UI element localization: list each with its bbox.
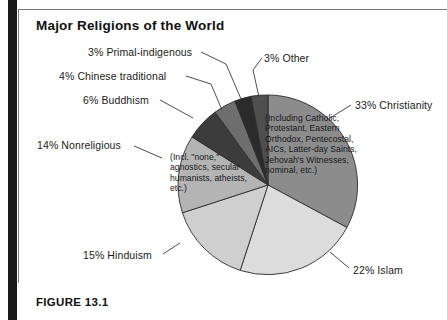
- slice-note-christianity: (Including Catholic, Protestant, Eastern…: [265, 113, 370, 175]
- nonreligious-note-line: humanists, atheists,: [170, 173, 265, 183]
- slice-label-hinduism: 15% Hinduism: [83, 249, 152, 261]
- leader-line-islam: [330, 252, 349, 268]
- christianity-note-line: AICs, Latter-day Saints,: [265, 144, 370, 154]
- christianity-note-line: Protestant, Eastern: [265, 123, 370, 133]
- nonreligious-note-line: (Incl. "none,": [170, 152, 265, 162]
- leader-line-primal-indigenous: [201, 52, 241, 99]
- nonreligious-note-line: agnostics, secular: [170, 162, 265, 172]
- slice-label-chinese-traditional: 4% Chinese traditional: [59, 70, 166, 82]
- christianity-note-line: Orthodox, Pentecostal,: [265, 134, 370, 144]
- christianity-note-line: nominal, etc.): [265, 165, 370, 175]
- slice-label-christianity: 33% Christianity: [355, 99, 432, 111]
- slice-label-other: 3% Other: [264, 52, 309, 64]
- slice-label-primal-indigenous: 3% Primal-indigenous: [88, 46, 192, 58]
- nonreligious-note-line: etc.): [170, 183, 265, 193]
- slice-label-nonreligious: 14% Nonreligious: [37, 139, 121, 151]
- slice-note-nonreligious: (Incl. "none," agnostics, secular humani…: [170, 152, 265, 194]
- leader-line-nonreligious: [134, 146, 162, 158]
- slice-label-islam: 22% Islam: [353, 264, 403, 276]
- christianity-note-line: (Including Catholic,: [265, 113, 370, 123]
- slice-label-buddhism: 6% Buddhism: [83, 94, 149, 106]
- leader-line-other: [253, 58, 262, 97]
- figure-page: Major Religions of the World: [0, 0, 447, 320]
- leader-line-chinese-traditional: [186, 76, 222, 110]
- christianity-note-line: Jehovah's Witnesses,: [265, 155, 370, 165]
- leader-line-buddhism: [160, 100, 193, 118]
- figure-caption: FIGURE 13.1: [36, 296, 108, 308]
- leader-line-hinduism: [163, 243, 180, 254]
